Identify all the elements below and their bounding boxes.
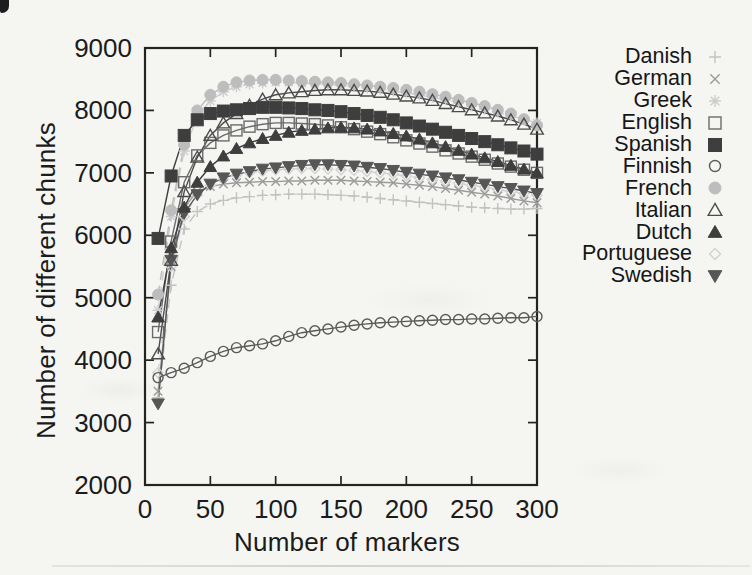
filled-triangle-marker-icon	[692, 222, 738, 242]
filled-circle-marker-icon	[692, 178, 738, 198]
legend-item-french: French	[582, 177, 738, 199]
svg-text:9000: 9000	[74, 33, 132, 63]
plus-marker-icon	[692, 47, 738, 67]
filled-down-triangle-marker-icon	[692, 266, 738, 286]
legend-item-english: English	[582, 112, 738, 134]
svg-text:200: 200	[385, 494, 428, 524]
svg-text:100: 100	[254, 494, 297, 524]
legend-item-finnish: Finnish	[582, 155, 738, 177]
legend-item-dutch: Dutch	[582, 221, 738, 243]
open-square-marker-icon	[692, 113, 738, 133]
legend-item-german: German	[582, 68, 738, 90]
x-axis-label: Number of markers	[0, 527, 694, 558]
open-diamond-marker-icon	[692, 244, 738, 264]
svg-text:4000: 4000	[74, 345, 132, 375]
svg-text:250: 250	[450, 494, 493, 524]
legend: Danish German Greek English Spanish Finn…	[582, 46, 738, 287]
svg-text:300: 300	[515, 494, 558, 524]
svg-text:3000: 3000	[74, 408, 132, 438]
svg-text:0: 0	[138, 494, 152, 524]
svg-text:8000: 8000	[74, 95, 132, 125]
legend-item-portuguese: Portuguese	[582, 243, 738, 265]
svg-text:50: 50	[196, 494, 225, 524]
open-triangle-marker-icon	[692, 200, 738, 220]
svg-text:2000: 2000	[74, 470, 132, 500]
cross-marker-icon	[692, 69, 738, 89]
svg-text:7000: 7000	[74, 158, 132, 188]
asterisk-marker-icon	[692, 91, 738, 111]
open-circle-marker-icon	[692, 156, 738, 176]
filled-square-marker-icon	[692, 135, 738, 155]
svg-text:5000: 5000	[74, 283, 132, 313]
legend-item-spanish: Spanish	[582, 134, 738, 156]
legend-item-greek: Greek	[582, 90, 738, 112]
y-axis-label: Number of different chunks	[31, 81, 62, 481]
svg-text:6000: 6000	[74, 220, 132, 250]
legend-label: Swedish	[611, 263, 692, 288]
legend-item-italian: Italian	[582, 199, 738, 221]
legend-item-danish: Danish	[582, 46, 738, 68]
scan-artifact-bottom-line	[52, 565, 750, 567]
svg-text:150: 150	[319, 494, 362, 524]
legend-item-swedish: Swedish	[582, 265, 738, 287]
